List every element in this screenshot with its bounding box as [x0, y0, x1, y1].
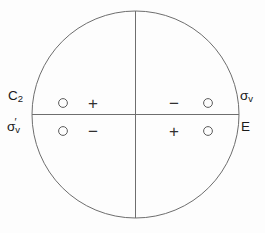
operation-label-sigma-v-prime: σ′v — [7, 120, 20, 135]
mark-sign-lower-left: − — [88, 123, 98, 140]
stereographic-projection-diagram — [0, 0, 265, 233]
mark-open-circle-lower-left — [59, 127, 68, 136]
operation-label-e-base: E — [241, 119, 250, 134]
mark-sign-lower-right: + — [169, 123, 179, 140]
diagram-page: + − − + C2 σ′v σv E — [0, 0, 265, 233]
operation-label-c2: C2 — [8, 89, 23, 104]
operation-label-c2-base: C — [8, 88, 18, 103]
mark-sign-upper-left: + — [88, 95, 98, 112]
operation-label-sigma-v: σv — [240, 89, 253, 104]
mark-sign-upper-right: − — [169, 95, 179, 112]
mark-open-circle-upper-right — [204, 99, 213, 108]
operation-label-sigma-v-subscript: v — [248, 93, 253, 104]
operation-label-e: E — [241, 120, 250, 134]
operation-label-sigma-v-prime-mark: ′ — [15, 117, 17, 128]
operation-label-sigma-v-prime-stack: σ′ — [7, 120, 15, 134]
mark-open-circle-lower-right — [204, 127, 213, 136]
operation-label-c2-subscript: 2 — [18, 93, 23, 104]
mark-open-circle-upper-left — [59, 99, 68, 108]
